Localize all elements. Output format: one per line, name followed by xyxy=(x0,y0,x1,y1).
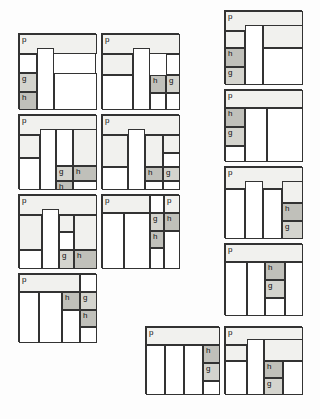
panel-9: phg xyxy=(224,326,302,394)
panel-11-cell-col xyxy=(245,108,267,162)
panel-1-cell-right xyxy=(54,73,97,110)
panel-8-label-g: g xyxy=(206,364,210,374)
panel-5-cell-mid xyxy=(59,215,74,232)
panel-10-cell-right xyxy=(263,48,303,85)
panel-4-cell-h: h xyxy=(145,167,163,181)
panel-9-cell-rw xyxy=(283,361,303,395)
panel-5-cell-col xyxy=(42,209,59,269)
panel-9-cell-left xyxy=(225,345,247,361)
panel-4: phg xyxy=(101,114,179,189)
panel-4-cell-lw xyxy=(102,167,128,190)
panel-12: phg xyxy=(224,166,302,238)
panel-8-label-p: p xyxy=(149,328,153,338)
panel-1-label-h: h xyxy=(22,93,26,103)
panel-12-cell-col xyxy=(245,181,263,239)
diagram-figure: pghphgpghhphgpghppghhphghphgphgphgphgphg… xyxy=(0,0,320,419)
panel-6-cell-rw xyxy=(164,231,180,269)
panel-3-cell-col1 xyxy=(40,129,56,190)
panel-4-cell-bw2 xyxy=(163,181,180,190)
panel-8-cell-col3 xyxy=(184,345,203,395)
panel-12-cell-topr xyxy=(282,181,303,203)
panel-11-cell-lw xyxy=(225,146,245,162)
panel-3-cell-h1: h xyxy=(73,166,97,181)
panel-4-label-p: p xyxy=(105,116,109,126)
panel-7-label-g: g xyxy=(83,293,87,303)
panel-4-cell-topr xyxy=(163,153,180,167)
panel-7-cell-h1: h xyxy=(62,292,80,310)
panel-8-cell-col1 xyxy=(146,345,165,395)
panel-5-cell-g: g xyxy=(59,250,74,269)
panel-13-cell-rw xyxy=(285,262,303,316)
panel-13-cell-col1 xyxy=(225,262,247,316)
panel-9-cell-lw xyxy=(225,361,247,395)
panel-5-cell-midw xyxy=(59,232,74,250)
panel-10: phg xyxy=(224,10,302,84)
panel-11-cell-g: g xyxy=(225,127,245,146)
panel-7-cell-rw xyxy=(80,327,97,343)
panel-6-cell-bw xyxy=(150,248,164,269)
panel-9-cell-topr xyxy=(264,339,303,361)
panel-5-label-g: g xyxy=(62,251,66,261)
panel-2-cell-colr xyxy=(166,54,180,75)
panel-5-cell-lw xyxy=(19,250,42,269)
panel-6-label-h2: h xyxy=(153,232,157,242)
panel-5-label-p: p xyxy=(22,196,26,206)
panel-10-cell-topr xyxy=(263,25,303,48)
panel-7-cell-h2: h xyxy=(80,310,97,327)
panel-2-label-h: h xyxy=(153,76,157,86)
panel-11-label-g: g xyxy=(228,128,232,138)
panel-3-cell-h2: h xyxy=(56,181,73,190)
panel-10-label-g: g xyxy=(228,68,232,78)
panel-3-cell-left xyxy=(19,135,40,158)
panel-11-cell-h: h xyxy=(225,108,245,127)
panel-12-label-p: p xyxy=(228,168,232,178)
panel-12-cell-g: g xyxy=(282,221,303,239)
panel-10-cell-col xyxy=(245,25,263,85)
panel-3-cell-bw xyxy=(73,181,97,190)
panel-6-cell-h1: h xyxy=(164,213,180,231)
panel-9-cell-g: g xyxy=(264,378,283,395)
panel-7: phgh xyxy=(18,273,96,342)
panel-11-label-h: h xyxy=(228,109,232,119)
panel-6: ppghh xyxy=(101,194,179,268)
panel-8-cell-rw xyxy=(203,381,220,395)
panel-5: pgh xyxy=(18,194,96,268)
panel-12-cell-mid xyxy=(263,189,282,239)
panel-4-cell-mid xyxy=(145,135,163,167)
panel-3-label-h1: h xyxy=(76,167,80,177)
panel-8-label-h: h xyxy=(206,346,210,356)
panel-13-label-p: p xyxy=(228,245,232,255)
panel-2-cell-bw1 xyxy=(150,93,166,110)
panel-11-label-p: p xyxy=(228,91,232,101)
panel-6-label-g: g xyxy=(153,214,157,224)
panel-6-cell-col2 xyxy=(124,213,150,269)
panel-7-cell-topw xyxy=(80,274,97,292)
panel-5-cell-h: h xyxy=(74,250,97,269)
panel-6-cell-topw xyxy=(150,195,164,213)
panel-7-cell-mw xyxy=(62,310,80,343)
panel-1-label-p: p xyxy=(22,35,26,45)
panel-4-cell-g: g xyxy=(163,167,180,181)
panel-6-label-h1: h xyxy=(167,214,171,224)
panel-7-cell-col2 xyxy=(39,292,62,343)
panel-4-cell-col xyxy=(128,129,145,190)
panel-1-cell-g: g xyxy=(19,73,37,92)
panel-1-cell-w1 xyxy=(19,54,37,73)
panel-3-cell-lw xyxy=(19,158,40,190)
panel-13: phg xyxy=(224,243,302,315)
panel-12-label-g: g xyxy=(285,222,289,232)
panel-9-label-g: g xyxy=(267,379,271,389)
panel-13-label-g: g xyxy=(268,281,272,291)
panel-4-cell-rp xyxy=(163,135,180,153)
panel-11: phg xyxy=(224,89,302,161)
panel-1-cell-h: h xyxy=(19,92,37,110)
panel-1-label-g: g xyxy=(22,74,26,84)
panel-6-label-p2: p xyxy=(167,196,171,206)
panel-3-cell-g: g xyxy=(56,166,73,181)
panel-13-cell-h: h xyxy=(265,262,285,280)
panel-3-cell-top-r xyxy=(73,129,97,166)
panel-2: phg xyxy=(101,33,179,109)
panel-13-label-h: h xyxy=(268,263,272,273)
panel-8-cell-g: g xyxy=(203,363,220,381)
panel-7-label-h2: h xyxy=(83,311,87,321)
